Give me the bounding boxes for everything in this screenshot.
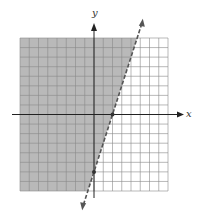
marked-point — [111, 113, 115, 117]
x-axis-arrow-icon — [177, 112, 184, 118]
line-arrow-icon — [80, 202, 86, 210]
line-arrow-icon — [139, 19, 145, 27]
y-axis-label: y — [92, 7, 98, 18]
marked-point — [92, 170, 96, 174]
inequality-graph — [0, 0, 200, 215]
y-axis-arrow-icon — [91, 23, 97, 31]
x-axis-label: x — [186, 108, 192, 119]
